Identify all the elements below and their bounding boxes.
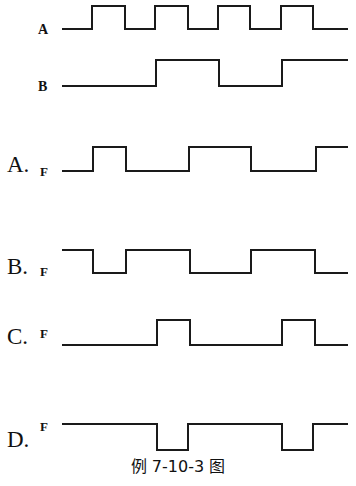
option-b-f-label: F xyxy=(40,264,48,279)
timing-diagram: A B A. F B. F C. F D. F 例 7-10-3 图 xyxy=(0,0,356,486)
option-a-label: A. xyxy=(7,152,29,177)
signal-a-waveform xyxy=(62,6,348,29)
option-b-label: B. xyxy=(7,254,28,279)
option-a-waveform xyxy=(62,147,348,171)
option-c-waveform xyxy=(62,320,348,345)
signal-b-label: B xyxy=(38,79,47,94)
option-c-label: C. xyxy=(7,324,28,349)
option-a-f-label: F xyxy=(40,164,48,179)
option-c-f-label: F xyxy=(40,326,48,341)
option-d-f-label: F xyxy=(40,419,48,434)
option-b-waveform xyxy=(62,250,348,273)
figure-caption: 例 7-10-3 图 xyxy=(131,457,225,476)
option-d-label: D. xyxy=(7,427,29,452)
signal-b-waveform xyxy=(62,60,348,86)
signal-a-label: A xyxy=(38,22,49,37)
option-d-waveform xyxy=(62,424,348,450)
